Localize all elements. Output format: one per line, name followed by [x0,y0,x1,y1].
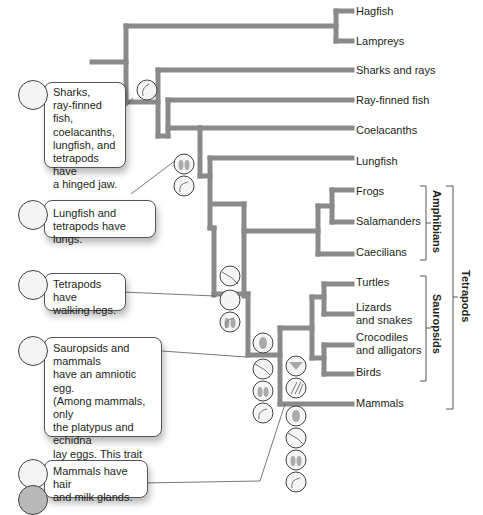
taxon-sharks-and-rays: Sharks and rays [356,64,435,77]
taxon-caecilians: Caecilians [356,246,407,259]
callout-line: Lungfish and [53,207,151,220]
taxon-line: Lizards [356,301,412,314]
callout-line: lungfish, and [53,139,121,152]
taxon-ray-finned-fish: Ray-finned fish [356,94,429,107]
taxon-salamanders: Salamanders [356,215,421,228]
callout-line: and milk glands. [53,491,143,504]
callout-line: have an amniotic egg. [53,368,157,394]
taxon-line: Crocodiles [356,331,421,344]
leg-icon [18,270,48,300]
callout-walking-legs: Tetrapods have walking legs. [44,273,126,311]
lungs-icon [18,200,48,230]
milk-gland-icon [18,485,48,515]
callout-lungs: Lungfish and tetrapods have lungs. [44,200,156,238]
taxon-line: and alligators [356,344,421,357]
taxon-coelacanths: Coelacanths [356,124,417,137]
taxon-crocodiles-and-alligators: Crocodiles and alligators [356,331,421,357]
jaw-icon [18,80,48,110]
callout-line: the platypus and echidna [53,421,157,447]
amniotic-egg-icon [18,336,48,366]
taxon-lampreys: Lampreys [356,35,404,48]
callout-line: walking legs. [53,304,121,317]
callout-line: Sauropsids and mammals [53,342,157,368]
callout-hair-and-milk-glands: Mammals have hair and milk glands. [44,460,148,498]
group-label-sauropsids: Sauropsids [431,294,443,354]
callout-line: coelacanths, [53,126,121,139]
taxon-mammals: Mammals [356,397,404,410]
callout-amniotic-egg: Sauropsids and mammals have an amniotic … [44,337,162,437]
taxon-lizards-and-snakes: Lizards and snakes [356,301,412,327]
taxon-hagfish: Hagfish [356,5,393,18]
taxon-lungfish: Lungfish [356,155,398,168]
taxon-birds: Birds [356,366,381,379]
callout-hinged-jaw: Sharks, ray-finned fish, coelacanths, lu… [44,82,126,168]
callout-line: ray-finned fish, [53,99,121,125]
callout-line: Tetrapods have [53,278,121,304]
callout-line: Sharks, [53,86,121,99]
group-label-tetrapods: Tetrapods [460,270,472,322]
group-label-amphibians: Amphibians [431,190,443,253]
callout-line: (Among mammals, only [53,395,157,421]
callout-line: tetrapods have [53,152,121,178]
taxon-turtles: Turtles [356,276,389,289]
callout-line: tetrapods have lungs. [53,220,151,246]
callout-line: a hinged jaw. [53,178,121,191]
taxon-frogs: Frogs [356,185,384,198]
callout-line: Mammals have hair [53,465,143,491]
taxon-line: and snakes [356,314,412,327]
